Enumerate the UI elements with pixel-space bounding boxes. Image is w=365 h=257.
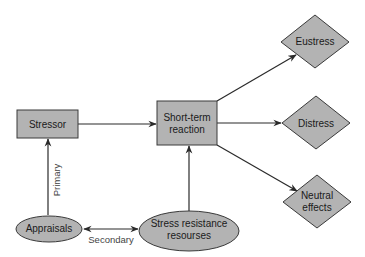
- node-distress-label: Distress: [298, 118, 334, 129]
- node-eustress-label: Eustress: [296, 36, 335, 47]
- node-short-term-line1: Short-term: [163, 112, 210, 123]
- node-resources-line1: Stress resistance: [151, 218, 228, 229]
- node-neutral-line1: Neutral: [301, 190, 333, 201]
- node-stressor-label: Stressor: [29, 119, 67, 130]
- node-resources-line2: resourses: [167, 230, 211, 241]
- stress-diagram: Primary Secondary Stressor Short-term re…: [0, 0, 365, 257]
- edge-label-secondary: Secondary: [88, 234, 134, 245]
- edge-label-primary: Primary: [51, 163, 62, 196]
- node-short-term-line2: reaction: [169, 124, 205, 135]
- node-stress-resistance-resources: Stress resistance resourses: [139, 211, 239, 251]
- node-neutral-line2: effects: [302, 202, 331, 213]
- node-neutral-effects: Neutral effects: [283, 175, 351, 228]
- edge-reaction-to-eustress: [217, 55, 296, 101]
- node-short-term-reaction: Short-term reaction: [157, 101, 217, 145]
- node-appraisals: Appraisals: [16, 216, 82, 242]
- node-appraisals-label: Appraisals: [26, 223, 73, 234]
- edge-reaction-to-neutral: [217, 145, 297, 191]
- node-distress: Distress: [282, 96, 350, 149]
- node-eustress: Eustress: [281, 15, 349, 68]
- node-stressor: Stressor: [17, 110, 78, 138]
